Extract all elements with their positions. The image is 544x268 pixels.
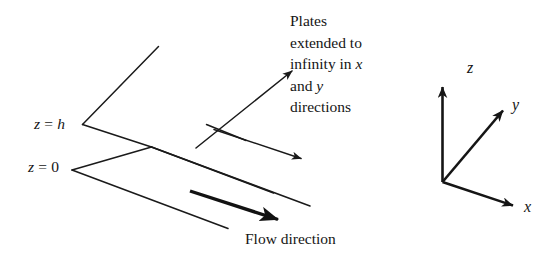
label-z-equals-0: z=0 bbox=[28, 159, 59, 175]
label-z-h-variable: z bbox=[34, 115, 40, 132]
axis-label-y: y bbox=[512, 97, 519, 113]
label-z-h-value: h bbox=[57, 115, 65, 132]
label-z-0-value: 0 bbox=[51, 158, 59, 175]
label-z-0-variable: z bbox=[28, 158, 34, 175]
annotation-line-5: directions bbox=[290, 96, 410, 118]
label-z-equals-h: z=h bbox=[34, 116, 65, 132]
upper-plate-left-edge bbox=[83, 125, 152, 148]
annotation-line-2: extended to bbox=[290, 32, 410, 54]
axis-label-z: z bbox=[467, 60, 473, 76]
annotation-line-4: and y bbox=[290, 75, 410, 97]
flow-direction-arrow bbox=[190, 191, 278, 220]
axis-y bbox=[443, 111, 504, 183]
axis-x bbox=[443, 182, 514, 206]
annotation-line-3-variable: x bbox=[355, 55, 362, 72]
annotation-line-4-text: and bbox=[290, 77, 316, 94]
annotation-leader-arrows bbox=[196, 71, 301, 159]
parallel-plate-flow-diagram: z=h z=0 Flow direction Plates extended t… bbox=[0, 0, 544, 268]
axis-label-x: x bbox=[524, 199, 531, 215]
annotation-line-1: Plates bbox=[290, 10, 410, 32]
lower-plate bbox=[72, 147, 310, 229]
flow-direction-caption: Flow direction bbox=[245, 231, 336, 247]
upper-plate bbox=[83, 47, 274, 194]
lower-plate-top-edge bbox=[152, 147, 311, 206]
coordinate-axes bbox=[443, 87, 514, 206]
label-z-h-equals: = bbox=[44, 115, 53, 132]
upper-plate-back-edge bbox=[83, 47, 159, 125]
annotation-line-3-text: infinity in bbox=[290, 55, 355, 72]
leader-arrow-up bbox=[196, 71, 292, 148]
label-z-0-equals: = bbox=[38, 158, 47, 175]
leader-arrow-down bbox=[214, 130, 301, 159]
lower-plate-back-edge bbox=[72, 147, 152, 170]
annotation-line-3: infinity in x bbox=[290, 53, 410, 75]
plates-annotation-text: Plates extended to infinity in x and y d… bbox=[290, 10, 410, 118]
annotation-line-4-variable: y bbox=[316, 77, 323, 94]
lower-plate-front-edge bbox=[72, 170, 228, 229]
diagram-vector-layer bbox=[0, 0, 544, 268]
